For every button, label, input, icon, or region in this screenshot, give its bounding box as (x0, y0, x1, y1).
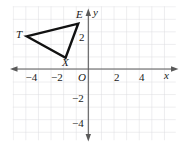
vertex-label-t: T (16, 29, 22, 40)
vertex-label-x: X (62, 57, 69, 68)
y-tick-label-2: 2 (79, 32, 85, 43)
y-axis-name: y (93, 7, 98, 18)
x-tick-label-2: 2 (114, 72, 120, 83)
y-tick-label-neg4: −4 (72, 118, 84, 129)
vertex-label-e: E (76, 9, 83, 20)
origin-label: O (78, 72, 86, 83)
x-axis-name: x (164, 70, 169, 81)
x-tick-label-neg4: −4 (26, 72, 38, 83)
y-tick-label-neg2: −2 (72, 93, 84, 104)
coordinate-plane-figure: T E X −4 −2 2 4 2 −2 −4 O x y (0, 0, 187, 146)
x-tick-label-4: 4 (139, 72, 145, 83)
x-tick-label-neg2: −2 (51, 72, 63, 83)
